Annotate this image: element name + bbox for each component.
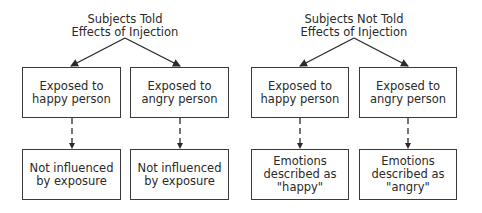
group-title-told: Subjects Told Effects of Injection (45, 13, 205, 38)
box-text: Exposed to happy person (261, 80, 340, 106)
box-told-exposed-angry: Exposed to angry person (130, 67, 229, 118)
box-text: Emotions described as "angry" (372, 155, 445, 194)
group-title-not-told-line2: Effects of Injection (274, 26, 434, 39)
group-title-not-told: Subjects Not Told Effects of Injection (274, 13, 434, 38)
box-text: Emotions described as "happy" (264, 155, 337, 194)
box-not-told-outcome-happy: Emotions described as "happy" (251, 149, 349, 200)
box-text: Not influenced by exposure (30, 162, 114, 188)
box-text: Not influenced by exposure (138, 162, 222, 188)
group-title-told-line1: Subjects Told (45, 13, 205, 26)
box-text: Exposed to angry person (141, 80, 217, 106)
box-text: Exposed to angry person (370, 80, 446, 106)
branch-arrows-not-told (300, 38, 408, 66)
group-title-not-told-line1: Subjects Not Told (274, 13, 434, 26)
box-not-told-exposed-angry: Exposed to angry person (359, 67, 457, 118)
box-not-told-exposed-happy: Exposed to happy person (251, 67, 349, 118)
branch-arrows-told (71, 38, 180, 66)
group-title-told-line2: Effects of Injection (45, 26, 205, 39)
box-not-told-outcome-angry: Emotions described as "angry" (359, 149, 457, 200)
dashed-arrows (72, 118, 408, 148)
diagram-canvas: Subjects Told Effects of Injection Expos… (0, 0, 482, 213)
box-told-outcome-happy: Not influenced by exposure (22, 149, 121, 200)
box-text: Exposed to happy person (32, 80, 111, 106)
box-told-exposed-happy: Exposed to happy person (22, 67, 121, 118)
box-told-outcome-angry: Not influenced by exposure (130, 149, 229, 200)
